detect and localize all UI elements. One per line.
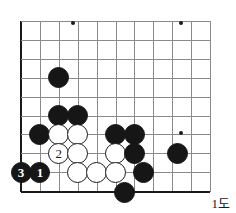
board-grid-line-horizontal <box>21 40 210 41</box>
board-grid-line-vertical <box>191 21 192 192</box>
board-grid-line-vertical <box>210 21 211 192</box>
board-grid-line-horizontal <box>21 97 210 98</box>
move-stone-2: 2 <box>48 143 69 164</box>
black-stone <box>105 124 126 145</box>
white-stone <box>86 162 107 183</box>
black-stone <box>48 105 69 126</box>
diagram-caption: 1도 <box>212 193 231 212</box>
move-number-label: 2 <box>49 144 68 163</box>
white-stone <box>48 124 69 145</box>
black-stone <box>29 124 50 145</box>
black-stone <box>133 162 154 183</box>
black-stone <box>48 67 69 88</box>
black-stone <box>114 182 135 203</box>
move-number-label: 3 <box>12 163 31 182</box>
black-stone <box>124 143 145 164</box>
black-stone <box>124 124 145 145</box>
white-stone <box>105 162 126 183</box>
go-diagram: 231 1도 <box>0 0 236 213</box>
white-stone <box>105 143 126 164</box>
white-stone <box>67 143 88 164</box>
move-number-label: 1 <box>30 163 49 182</box>
white-stone <box>67 162 88 183</box>
go-board: 231 <box>0 0 236 200</box>
hoshi-star-point <box>179 21 183 25</box>
board-grid-line-vertical <box>172 21 173 192</box>
hoshi-star-point <box>71 21 75 25</box>
black-stone <box>67 105 88 126</box>
move-stone-1: 1 <box>29 162 50 183</box>
white-stone <box>67 124 88 145</box>
board-grid-line-vertical <box>153 21 154 192</box>
move-stone-3: 3 <box>11 162 32 183</box>
board-grid-line-horizontal <box>21 59 210 60</box>
black-stone <box>167 143 188 164</box>
